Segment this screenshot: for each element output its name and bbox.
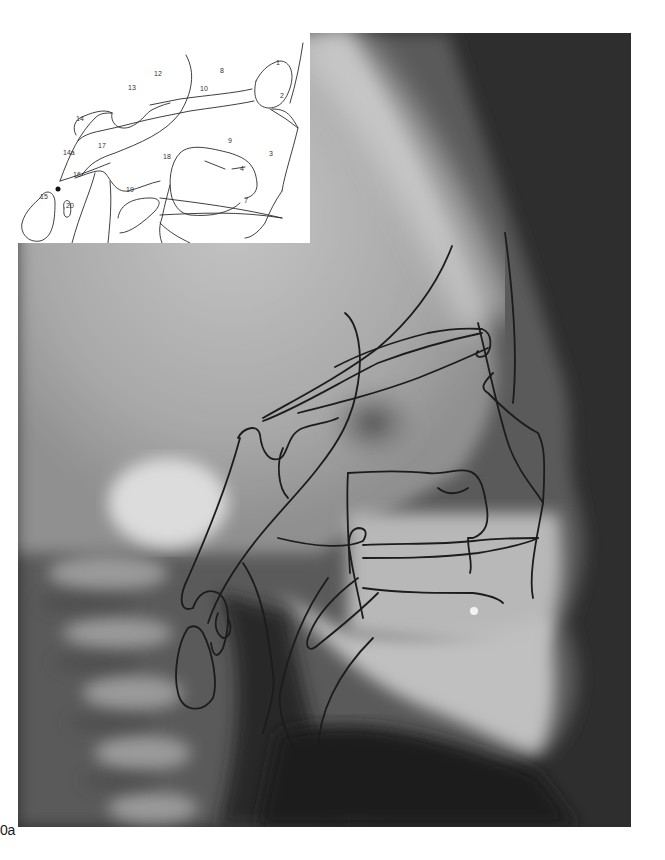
label-19: 19 — [126, 186, 134, 193]
label-20: 20 — [66, 202, 74, 209]
label-14: 14 — [76, 115, 84, 122]
label-9: 9 — [228, 137, 232, 144]
label-2: 2 — [280, 92, 284, 99]
label-1: 1 — [276, 59, 280, 66]
label-4: 4 — [240, 165, 244, 172]
label-15: 15 — [40, 193, 48, 200]
label-14a: 14a — [63, 149, 75, 156]
label-16: 16 — [73, 171, 81, 178]
figure-label-a: 0a — [0, 822, 15, 838]
tracing-diagram-inset: 1 2 3 4 7 8 9 10 12 13 14 14a 15 16 17 1… — [0, 33, 310, 243]
label-18: 18 — [163, 153, 171, 160]
label-10: 10 — [200, 85, 208, 92]
label-17: 17 — [98, 142, 106, 149]
label-7: 7 — [244, 197, 248, 204]
label-3: 3 — [269, 150, 273, 157]
label-8: 8 — [220, 67, 224, 74]
label-12: 12 — [154, 70, 162, 77]
label-13: 13 — [128, 84, 136, 91]
